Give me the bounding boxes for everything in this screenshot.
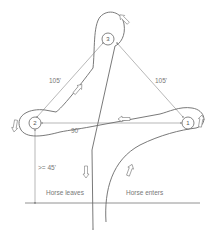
leave-path-end [92,228,94,230]
distance-start-label: >= 45' [38,164,56,171]
measure-line-right [117,43,183,117]
distance-right-label: 105' [155,77,167,84]
barrel-3: 3 [102,33,114,45]
arrow-left-side-icon [72,82,84,95]
barrel-2: 2 [29,117,41,129]
arrow-horse-enters-icon [125,163,135,176]
diagram-canvas: 1 2 3 105' [0,0,217,234]
horse-enters-label: Horse enters [126,189,164,196]
horse-leaves-label: Horse leaves [46,189,85,196]
distance-left-label: 105' [49,77,61,84]
barrel-racing-diagram: 1 2 3 105' [0,0,217,234]
arrow-barrel-2-icon [11,120,19,133]
barrel-1: 1 [182,117,194,129]
measure-line-left [37,43,103,117]
distance-base-label: 90' [71,127,79,134]
arrow-horse-leaves-icon [83,166,89,178]
